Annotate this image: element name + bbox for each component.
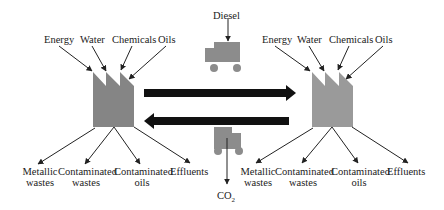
left-input-energy: Energy bbox=[44, 34, 74, 45]
diesel-label: Diesel bbox=[213, 10, 240, 21]
left-output-contaminated-oils: Contaminated oils bbox=[114, 166, 170, 188]
output-line1: Effluents bbox=[387, 166, 425, 177]
left-output-contaminated-wastes: Contaminated wastes bbox=[58, 166, 114, 188]
output-line2: wastes bbox=[22, 177, 58, 188]
right-output-contaminated-oils: Contaminated oils bbox=[331, 166, 387, 188]
left-input-oils: Oils bbox=[158, 34, 176, 45]
output-line1: Contaminated bbox=[331, 166, 387, 177]
left-input-water: Water bbox=[80, 34, 105, 45]
output-line1: Metallic bbox=[240, 166, 276, 177]
output-line1: Contaminated bbox=[58, 166, 114, 177]
top-truck-icon bbox=[205, 42, 241, 72]
right-input-oils: Oils bbox=[375, 34, 393, 45]
right-input-arrows bbox=[275, 46, 383, 79]
left-input-arrows bbox=[59, 46, 166, 79]
left-output-arrows bbox=[38, 127, 190, 164]
right-input-water: Water bbox=[297, 34, 322, 45]
output-line2: wastes bbox=[275, 177, 331, 188]
output-line1: Effluents bbox=[170, 166, 208, 177]
output-line2: oils bbox=[114, 177, 170, 188]
output-line1: Metallic bbox=[22, 166, 58, 177]
co2-label: CO2 bbox=[217, 190, 235, 206]
left-factory-icon bbox=[93, 72, 134, 127]
output-line1: Contaminated bbox=[275, 166, 331, 177]
output-line2: wastes bbox=[240, 177, 276, 188]
right-output-metallic-wastes: Metallic wastes bbox=[240, 166, 276, 188]
co2-subscript: 2 bbox=[232, 196, 236, 204]
forward-transfer-arrow bbox=[144, 85, 296, 101]
right-output-contaminated-wastes: Contaminated wastes bbox=[275, 166, 331, 188]
return-transfer-arrow bbox=[144, 113, 289, 129]
left-output-effluents: Effluents bbox=[170, 166, 208, 177]
bottom-truck-icon bbox=[214, 127, 243, 155]
right-output-effluents: Effluents bbox=[387, 166, 425, 177]
co2-text: CO bbox=[217, 190, 232, 201]
output-line2: wastes bbox=[58, 177, 114, 188]
output-line1: Contaminated bbox=[114, 166, 170, 177]
right-factory-icon bbox=[312, 72, 353, 127]
right-input-energy: Energy bbox=[262, 34, 292, 45]
left-output-metallic-wastes: Metallic wastes bbox=[22, 166, 58, 188]
right-input-chemicals: Chemicals bbox=[329, 34, 373, 45]
left-input-chemicals: Chemicals bbox=[112, 34, 156, 45]
right-output-arrows bbox=[256, 127, 408, 163]
output-line2: oils bbox=[331, 177, 387, 188]
